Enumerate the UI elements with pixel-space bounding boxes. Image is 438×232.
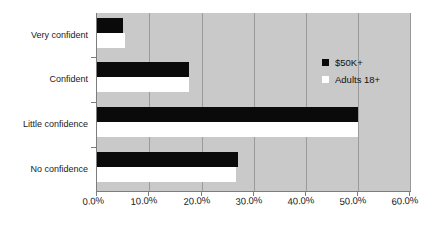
legend-item-50k: $50K+: [322, 54, 380, 71]
y-tick-confident: [91, 102, 96, 103]
bar-no-confidence-adults: [97, 167, 236, 182]
x-tick-label-60: 60.0%: [391, 194, 419, 208]
bar-confident-50k: [97, 62, 189, 77]
bar-confident-adults: [97, 77, 189, 92]
bar-very-confident-adults: [97, 33, 125, 48]
legend-label-adults: Adults 18+: [335, 71, 380, 88]
category-label-little-confidence: Little confidence: [0, 119, 88, 130]
bar-chart: Very confident Confident Little confiden…: [0, 0, 438, 232]
legend-label-50k: $50K+: [335, 54, 363, 71]
category-label-no-confidence: No confidence: [0, 164, 88, 175]
x-tick-label-20: 20.0%: [183, 194, 211, 208]
plot-area: [96, 13, 411, 191]
legend-item-adults: Adults 18+: [322, 71, 380, 88]
bar-very-confident-50k: [97, 18, 123, 33]
x-tick-label-40: 40.0%: [287, 194, 315, 208]
category-band-little-confidence: [97, 102, 411, 147]
white-square-swatch-icon: [322, 76, 329, 83]
y-tick-very-confident: [91, 57, 96, 58]
bar-little-confidence-adults: [97, 122, 358, 137]
black-square-swatch-icon: [322, 59, 329, 66]
chart-legend: $50K+ Adults 18+: [322, 54, 380, 88]
category-label-confident: Confident: [0, 74, 88, 85]
x-tick-label-30: 30.0%: [235, 194, 263, 208]
category-band-no-confidence: [97, 147, 411, 191]
y-tick-little-confidence: [91, 147, 96, 148]
x-tick-label-50: 50.0%: [339, 194, 367, 208]
category-band-very-confident: [97, 13, 411, 57]
category-label-very-confident: Very confident: [0, 30, 88, 41]
bar-no-confidence-50k: [97, 152, 238, 167]
x-tick-label-10: 10.0%: [130, 194, 158, 208]
bar-little-confidence-50k: [97, 107, 358, 122]
x-tick-label-0: 0.0%: [82, 194, 104, 207]
